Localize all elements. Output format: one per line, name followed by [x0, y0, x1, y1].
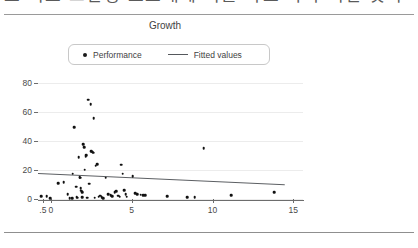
scatter-point — [46, 195, 49, 198]
scatter-point — [67, 193, 70, 196]
scatter-point — [193, 196, 196, 199]
scatter-point — [79, 176, 82, 179]
scatter-point — [75, 186, 78, 189]
scatter-point — [85, 154, 88, 157]
x-tick — [213, 199, 214, 203]
scatter-point — [81, 196, 84, 199]
x-tick-label: .5 — [39, 205, 46, 215]
scatter-point — [126, 196, 129, 199]
x-tick — [43, 199, 44, 203]
x-tick — [51, 199, 52, 203]
y-tick-label: 40 — [23, 136, 32, 146]
scatter-point — [230, 194, 233, 197]
x-tick-label: 15 — [289, 205, 298, 215]
scatter-point — [102, 197, 105, 200]
scatter-point — [92, 152, 95, 155]
line-marker-icon — [168, 54, 188, 56]
x-tick — [132, 199, 133, 203]
scatter-point — [77, 156, 80, 159]
plot-area: 020406080 .5051015 — [38, 77, 303, 199]
x-tick-label: 0 — [49, 205, 54, 215]
x-tick-label: 10 — [208, 205, 217, 215]
scatter-point — [105, 176, 108, 179]
scatter-point — [84, 168, 87, 171]
scatter-series-performance — [38, 77, 303, 199]
y-tick — [34, 199, 38, 200]
x-tick — [293, 199, 294, 203]
scatter-point — [71, 197, 74, 200]
scatter-point — [89, 103, 92, 106]
scatter-point — [120, 164, 123, 167]
scatter-point — [186, 196, 189, 199]
scatter-point — [87, 98, 90, 101]
chart-title: Growth — [0, 20, 330, 31]
legend-label-performance: Performance — [93, 50, 142, 60]
scatter-point — [76, 196, 79, 199]
x-axis-line — [38, 200, 304, 201]
scatter-point — [118, 195, 121, 198]
scatter-point — [73, 126, 76, 129]
chart-legend: Performance Fitted values — [68, 44, 270, 65]
scatter-point — [123, 189, 126, 192]
scatter-point — [115, 190, 118, 193]
bottom-divider — [4, 232, 414, 233]
scatter-point — [83, 146, 86, 149]
chart-container: Growth Performance Fitted values 0204060… — [0, 15, 418, 231]
scatter-point — [40, 195, 43, 198]
scatter-point — [96, 163, 99, 166]
scatter-point — [136, 193, 139, 196]
legend-item-performance: Performance — [83, 50, 142, 60]
scatter-marker-icon — [83, 53, 87, 57]
scatter-point — [144, 194, 147, 197]
scatter-point — [122, 173, 125, 176]
scatter-point — [71, 172, 74, 175]
scatter-point — [111, 195, 114, 198]
y-tick-label: 20 — [23, 165, 32, 175]
scatter-point — [202, 147, 205, 150]
y-tick-label: 80 — [23, 78, 32, 88]
y-tick-label: 0 — [27, 194, 32, 204]
scatter-point — [92, 117, 95, 120]
scatter-point — [57, 182, 60, 185]
scatter-point — [93, 196, 96, 199]
scatter-point — [166, 195, 169, 198]
gridline — [38, 199, 303, 200]
page-root: 도 의표 고인정 요소대에 의를 타보 따가 비빌 것이 Growth Perf… — [0, 0, 418, 248]
scatter-point — [131, 175, 134, 178]
y-tick-label: 60 — [23, 107, 32, 117]
scatter-point — [86, 197, 89, 200]
legend-item-fitted-values: Fitted values — [168, 50, 242, 60]
scatter-point — [273, 191, 276, 194]
legend-label-fitted-values: Fitted values — [194, 50, 242, 60]
scatter-point — [88, 182, 91, 185]
scatter-point — [49, 197, 52, 200]
clipped-header-text: 도 의표 고인정 요소대에 의를 타보 따가 비빌 것이 — [0, 0, 418, 13]
scatter-point — [81, 191, 84, 194]
scatter-point — [63, 181, 66, 184]
x-tick-label: 5 — [129, 205, 134, 215]
clipped-header-label: 도 의표 고인정 요소대에 의를 타보 따가 비빌 것이 — [4, 0, 404, 4]
